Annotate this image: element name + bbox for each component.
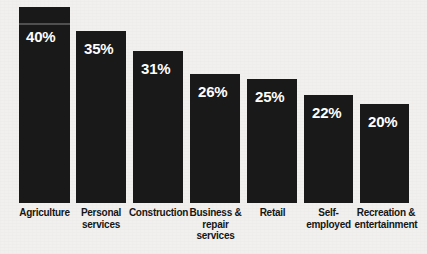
bar[interactable]: 20% xyxy=(360,104,409,203)
bar[interactable]: 26% xyxy=(190,74,240,203)
category-label-line: repair xyxy=(180,219,251,231)
bar-value-label: 26% xyxy=(198,84,227,99)
bar-value-label: 22% xyxy=(312,105,341,120)
scan-streak xyxy=(19,23,70,25)
bar-value-label: 25% xyxy=(255,89,284,104)
category-label-line: services xyxy=(61,219,141,231)
category-label-line: services xyxy=(180,230,251,242)
bar[interactable]: 40% xyxy=(19,7,70,203)
bar-value-label: 31% xyxy=(141,61,170,76)
bar-value-label: 35% xyxy=(84,41,113,56)
category-label-line: entertainment xyxy=(348,219,424,231)
category-label-line: Recreation & xyxy=(348,207,424,219)
bar-chart: 40%35%31%26%25%22%20% AgriculturePersona… xyxy=(0,0,427,254)
bar[interactable]: 31% xyxy=(133,51,183,203)
bar[interactable]: 25% xyxy=(247,79,297,203)
bar[interactable]: 22% xyxy=(304,95,353,203)
bar[interactable]: 35% xyxy=(76,31,126,203)
bar-value-label: 40% xyxy=(26,29,55,44)
bar-value-label: 20% xyxy=(368,114,397,129)
category-label: Recreation &entertainment xyxy=(348,207,424,230)
